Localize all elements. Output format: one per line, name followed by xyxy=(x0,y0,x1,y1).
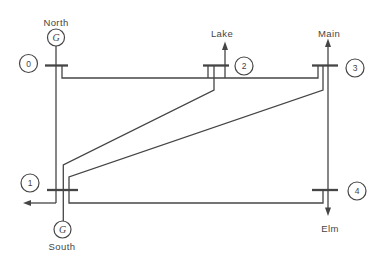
bus-3-number: 3 xyxy=(353,63,358,73)
bus-2-number: 2 xyxy=(242,61,247,71)
bus-3-badge: 3 xyxy=(346,59,364,77)
one-line-diagram: G G 0 1 2 3 4 xyxy=(0,0,385,265)
generator-south-letter: G xyxy=(59,224,66,235)
bus-0-badge: 0 xyxy=(20,55,38,73)
bus-1-badge: 1 xyxy=(21,174,39,192)
elm-arrowhead-icon xyxy=(325,208,331,217)
line-1-2 xyxy=(63,66,214,222)
load-arrow-lake xyxy=(222,42,228,79)
bus-1-number: 1 xyxy=(28,178,33,188)
south-arrowhead-icon xyxy=(23,200,31,206)
bus-4-badge: 4 xyxy=(348,182,366,200)
main-arrowhead-icon xyxy=(325,39,331,48)
bus-0-number: 0 xyxy=(26,59,31,69)
bus-south-label: South xyxy=(49,241,76,252)
load-arrow-south xyxy=(23,200,56,206)
generator-north-icon: G xyxy=(48,29,65,46)
bus-number-badges: 0 1 2 3 4 xyxy=(20,55,367,201)
load-arrow-main xyxy=(325,39,331,48)
bus-lake-label: Lake xyxy=(211,28,233,39)
transmission-lines xyxy=(56,46,328,221)
busbars xyxy=(45,66,338,191)
bus-2-badge: 2 xyxy=(235,57,253,75)
lake-arrowhead-icon xyxy=(222,42,228,51)
diagram-canvas: G G 0 1 2 3 4 xyxy=(0,0,385,265)
bus-4-number: 4 xyxy=(355,186,360,196)
bus-main-label: Main xyxy=(318,28,340,39)
bus-north-label: North xyxy=(43,17,68,28)
line-0-2-and-2-3 xyxy=(62,66,318,79)
bus-elm-label: Elm xyxy=(321,223,339,234)
load-arrow-elm xyxy=(325,208,331,217)
generator-north-letter: G xyxy=(52,32,59,43)
line-1-3-and-1-4 xyxy=(69,66,323,204)
generator-south-icon: G xyxy=(54,221,71,238)
bus-name-labels: North Lake Main South Elm xyxy=(43,17,340,252)
